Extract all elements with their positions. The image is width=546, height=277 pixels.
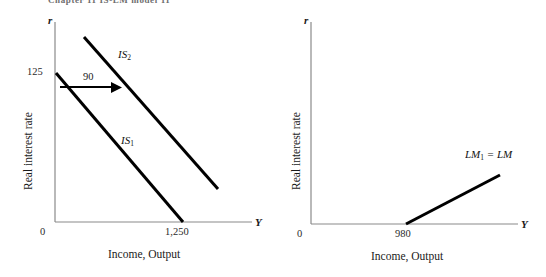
y-axis-title: Real interest rate bbox=[290, 112, 302, 190]
x-tick-980: 980 bbox=[395, 228, 411, 239]
x-axis-variable-label: Y bbox=[521, 218, 528, 230]
is-panel: r Y 125 0 1,250 Real interest rate Incom… bbox=[0, 0, 273, 277]
lm-panel: r Y 0 980 Real interest rate Income, Out… bbox=[273, 0, 546, 277]
y-axis-variable-label: r bbox=[304, 14, 308, 26]
shift-amount-label: 90 bbox=[83, 71, 94, 82]
x-axis-title: Income, Output bbox=[108, 248, 180, 260]
shift-arrow-head bbox=[111, 82, 122, 93]
lm-label-subscript: 1 bbox=[480, 153, 484, 162]
figure-page: Chapter 11 IS-LM model 11 r Y 125 0 1,25… bbox=[0, 0, 546, 277]
is1-curve bbox=[56, 73, 183, 222]
lm-curve bbox=[406, 175, 500, 224]
lm-curve-label: LM1 = LM bbox=[465, 148, 512, 160]
y-tick-125: 125 bbox=[27, 66, 43, 77]
is1-label-text: IS bbox=[121, 134, 130, 146]
is2-curve bbox=[84, 37, 218, 189]
is2-curve-label: IS2 bbox=[118, 48, 131, 60]
lm-curve-label-clip: LM1 = LM bbox=[465, 148, 546, 168]
x-axis-title: Income, Output bbox=[371, 250, 443, 262]
lm-label-prefix: LM bbox=[465, 148, 480, 160]
x-tick-1250: 1,250 bbox=[165, 226, 189, 237]
origin-label: 0 bbox=[40, 226, 45, 237]
is2-label-text: IS bbox=[118, 48, 127, 60]
is1-label-subscript: 1 bbox=[130, 139, 134, 148]
y-axis-variable-label: r bbox=[48, 14, 52, 26]
x-axis-variable-label: Y bbox=[255, 216, 262, 228]
is2-label-subscript: 2 bbox=[127, 53, 131, 62]
y-axis-title: Real interest rate bbox=[22, 112, 34, 190]
origin-label: 0 bbox=[297, 228, 302, 239]
is1-curve-label: IS1 bbox=[121, 134, 134, 146]
lm-label-suffix: = LM bbox=[484, 148, 512, 160]
